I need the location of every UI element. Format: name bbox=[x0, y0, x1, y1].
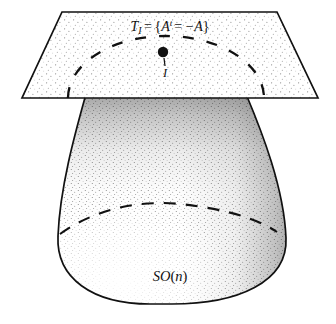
tangent-label-sup-t: t bbox=[170, 18, 173, 28]
manifold-label-so: SO bbox=[153, 268, 171, 284]
so-n-manifold-blob: SO(n) bbox=[45, 88, 300, 322]
tangent-label-A: A bbox=[160, 19, 170, 34]
tangent-label-equals: = bbox=[144, 19, 152, 34]
tangent-label-inner-equals: = bbox=[174, 19, 182, 34]
tangent-label-open-brace: { bbox=[154, 19, 161, 34]
tangent-label-sub-I: I bbox=[137, 25, 142, 36]
identity-point-dot bbox=[158, 47, 168, 57]
tangent-plane: I TI={At=−A} bbox=[22, 12, 318, 98]
manifold-label-n: n bbox=[175, 268, 182, 284]
manifold-label: SO(n) bbox=[153, 268, 188, 285]
tangent-label-minus-A: −A bbox=[185, 19, 203, 34]
manifold-highlight bbox=[45, 178, 255, 322]
manifold-label-close-paren: ) bbox=[182, 268, 187, 285]
figure-canvas: SO(n) I TI={At=−A} bbox=[0, 0, 336, 324]
identity-point-label: I bbox=[162, 66, 168, 80]
figure-root: SO(n) I TI={At=−A} bbox=[0, 0, 336, 324]
tangent-label-close-brace: } bbox=[203, 19, 210, 34]
